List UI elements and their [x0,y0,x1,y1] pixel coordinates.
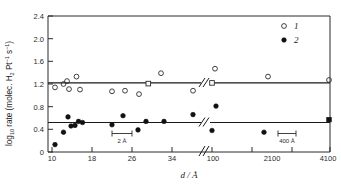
x-axis-title: d / Å [181,170,199,180]
data-point [191,88,196,93]
y-tick-label: 0 [40,148,44,157]
data-point [80,120,85,125]
scale-bar-right-label: 400 Å [279,138,295,144]
data-point [53,85,58,90]
data-point [121,113,126,118]
y-tick-label: 1.6 [34,57,44,66]
data-point [110,123,115,128]
legend-marker-filled-circle [282,38,287,43]
data-point [137,92,142,97]
data-point [53,142,58,147]
trend-line-series-1 [48,78,330,87]
svg-text:log10 rate (molec. H2 Pt−1 s−1: log10 rate (molec. H2 Pt−1 s−1) [4,41,15,146]
data-point [61,130,66,135]
data-point [162,119,167,124]
y-tick-label: 0.4 [34,125,44,134]
data-point [66,115,71,120]
legend-marker-open-circle [282,24,287,29]
y-tick-label: 2.0 [34,35,44,44]
data-point [191,112,196,117]
ylabel-lead: log [5,135,14,146]
data-point [110,89,115,94]
legend-label-1: 1 [294,21,299,31]
data-point [123,88,128,93]
data-point [73,123,78,128]
ylabel-mid: rate (molec. H [5,75,14,129]
scale-bar-left: 2 Å [112,131,132,145]
data-point [136,128,141,133]
y-axis-title: log10 rate (molec. H2 Pt−1 s−1) [4,41,15,146]
data-point [67,87,72,92]
data-point [210,128,215,133]
x-tick-label: 10 [48,154,56,163]
data-point [213,66,218,71]
x-axis-ticks [52,147,330,152]
data-point [159,71,164,76]
figure-container: 0 0.4 0.8 1.2 1.6 2.0 2.4 10 18 26 34 10… [0,0,341,185]
scale-bar-left-label: 2 Å [117,138,126,144]
data-point [144,119,149,124]
x-tick-label: 2100 [264,154,281,163]
y-tick-label: 0.8 [34,103,44,112]
data-point [266,74,271,79]
x-tick-label: 34 [168,154,176,163]
y-axis-ticks [48,16,53,152]
data-point [146,81,151,86]
legend-label-2: 2 [294,35,299,45]
data-point [262,130,267,135]
x-tick-label: 26 [128,154,136,163]
legend: 1 2 [282,21,299,45]
series-1-points [53,66,332,96]
y-tick-label: 2.4 [34,12,44,21]
data-point [327,117,332,122]
y-tick-label: 1.2 [34,80,44,89]
axes-box [48,16,330,152]
scatter-plot: 0 0.4 0.8 1.2 1.6 2.0 2.4 10 18 26 34 10… [0,0,341,185]
x-tick-label: 4100 [320,154,337,163]
data-point [74,74,79,79]
y-axis-tick-labels: 0 0.4 0.8 1.2 1.6 2.0 2.4 [34,12,44,157]
data-point [78,87,83,92]
ylabel-tail: ) [5,41,14,44]
data-point [214,104,219,109]
scale-bar-right: 400 Å [278,131,296,145]
data-point [327,78,332,83]
x-tick-label: 100 [207,154,220,163]
data-point [210,81,215,86]
trend-line-series-2 [48,118,330,127]
x-axis-tick-labels: 10 18 26 34 100 2100 4100 [48,154,337,163]
plot-frame [48,16,330,152]
x-tick-label: 18 [88,154,96,163]
